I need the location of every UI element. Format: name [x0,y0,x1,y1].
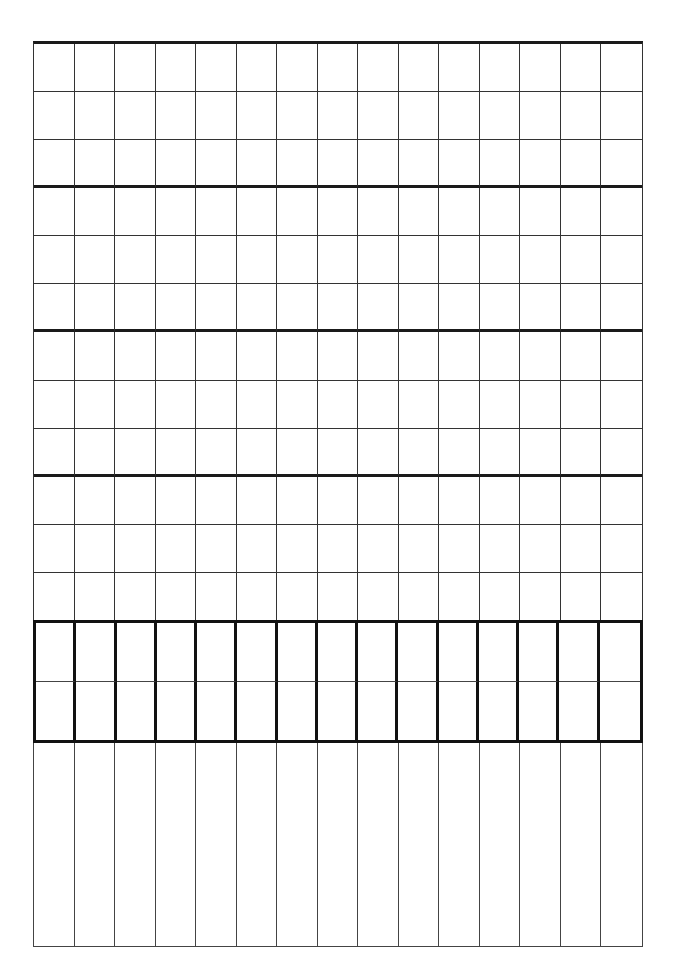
grid-cell [156,284,197,332]
grid-cell [439,429,480,477]
grid-cell [561,477,602,525]
grid-cell [601,381,642,429]
grid-cell [277,429,318,477]
grid-cell [439,44,480,92]
grid-cell [196,44,237,92]
band-cell [439,623,479,682]
grid-cell [115,573,156,621]
band-cell [439,682,479,741]
grid-cell [480,92,521,140]
grid-cell [237,140,278,188]
grid-cell [156,332,197,380]
grid-cell [358,236,399,284]
grid-cell [358,140,399,188]
grid-cell [156,236,197,284]
grid-cell [439,477,480,525]
column-cell [34,743,75,946]
column-cell [237,743,278,946]
band-cell [157,623,197,682]
grid-cell [115,236,156,284]
grid-cell [196,236,237,284]
grid-cell [480,236,521,284]
grid-cell [115,284,156,332]
grid-cell [399,429,440,477]
grid-cell [358,92,399,140]
grid-cell [318,381,359,429]
band-cell [479,682,519,741]
column-cell [196,743,237,946]
grid-cell [601,332,642,380]
grid-cell [277,284,318,332]
grid-cell [358,381,399,429]
grid-cell [358,188,399,236]
grid-cell [480,429,521,477]
grid-cell [601,188,642,236]
grid-cell [318,525,359,573]
grid-cell [520,236,561,284]
grid-cell [237,573,278,621]
grid-cell [237,44,278,92]
grid-cell [601,92,642,140]
grid-cell [601,525,642,573]
grid-cell [34,429,75,477]
column-cell [115,743,156,946]
grid-cell [318,236,359,284]
grid-cell [358,477,399,525]
grid-cell [399,477,440,525]
grid-cell [399,284,440,332]
grid-cell [439,573,480,621]
grid-cell [156,381,197,429]
grid-cell [318,332,359,380]
column-cell [156,743,197,946]
grid-cell [34,92,75,140]
band-cell [398,682,438,741]
grid-cell [277,573,318,621]
grid-cell [318,429,359,477]
grid-cell [399,188,440,236]
grid-cell [75,381,116,429]
grid-cell [34,381,75,429]
column-cell [277,743,318,946]
grid-cell [480,44,521,92]
grid-cell [237,332,278,380]
grid-cell [34,284,75,332]
grid-cell [439,381,480,429]
grid-cell [115,188,156,236]
grid-cell [196,92,237,140]
grid-cell [237,188,278,236]
grid-cell [318,92,359,140]
grid-cell [561,573,602,621]
band-cell [559,682,599,741]
grid-cell [439,236,480,284]
grid-cell [480,284,521,332]
grid-cell [196,573,237,621]
band-cell [600,682,640,741]
grid-cell [399,140,440,188]
band-cell [318,623,358,682]
grid-cell [277,477,318,525]
grid-cell [115,477,156,525]
column-cell [439,743,480,946]
grid-cell [480,381,521,429]
grid-cell [399,44,440,92]
grid-cell [156,429,197,477]
band-cell [157,682,197,741]
grid-cell [237,525,278,573]
grid-cell [34,477,75,525]
grid-cell [75,188,116,236]
grid-cell [439,92,480,140]
grid-cell [480,332,521,380]
grid-cell [277,44,318,92]
grid-cell [439,525,480,573]
grid-cell [561,525,602,573]
grid-cell [196,140,237,188]
grid-cell [237,284,278,332]
grid-cell [237,429,278,477]
grid-cell [115,381,156,429]
band-cell [278,682,318,741]
grid-cell [75,429,116,477]
lower-column-section [33,743,643,947]
column-cell [561,743,602,946]
grid-cell [75,44,116,92]
grid-cell [277,332,318,380]
